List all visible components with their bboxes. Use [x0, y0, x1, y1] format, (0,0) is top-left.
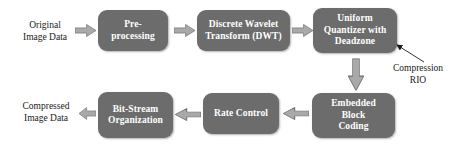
node-embedded-block-coding: Embedded Block Coding: [312, 93, 395, 138]
node-label-bit-stream-organization: Bit-Stream Organization: [108, 104, 163, 127]
node-discrete-wavelet-transform: Discrete Wavelet Transform (DWT): [197, 10, 290, 51]
arrow-preprocessing-to-dwt: [174, 24, 195, 37]
node-label-discrete-wavelet-transform: Discrete Wavelet Transform (DWT): [205, 19, 282, 42]
node-uniform-quantizer-with-deadzone: Uniform Quantizer with Deadzone: [313, 8, 397, 53]
arrow-block-coding-to-rate-control: [283, 107, 309, 120]
node-label-rate-control: Rate Control: [214, 108, 268, 120]
node-label-uniform-quantizer-with-deadzone: Uniform Quantizer with Deadzone: [324, 13, 387, 48]
arrow-input-to-preprocessing: [75, 24, 96, 37]
flowchart-diagram: Pre- processingDiscrete Wavelet Transfor…: [0, 0, 456, 148]
arrow-rate-control-to-bit-stream: [175, 108, 201, 121]
arrow-dwt-to-quantizer: [292, 24, 313, 37]
node-bit-stream-organization: Bit-Stream Organization: [98, 92, 173, 138]
io-label-input: Original Image Data: [14, 19, 76, 43]
node-label-embedded-block-coding: Embedded Block Coding: [331, 98, 376, 133]
arrow-quantizer-to-block-coding: [347, 58, 364, 90]
node-label-pre-processing: Pre- processing: [111, 19, 155, 42]
annotation-compression-rio: Compression RIO: [385, 62, 451, 86]
arrow-bit-stream-to-output: [79, 107, 96, 120]
node-pre-processing: Pre- processing: [98, 10, 168, 51]
io-label-output: Compressed Image Data: [11, 100, 81, 124]
node-rate-control: Rate Control: [203, 93, 279, 134]
